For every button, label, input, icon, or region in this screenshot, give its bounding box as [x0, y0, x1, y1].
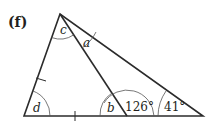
angle-label-d: d — [33, 101, 41, 115]
interior-segment — [60, 14, 127, 116]
angle-label-126: 126° — [125, 100, 154, 114]
angle-label-c: c — [60, 23, 67, 37]
angle-label-b: b — [107, 101, 115, 115]
figure-label: (f) — [8, 14, 27, 30]
geometry-figure: (f) c a d b 126° 41° — [0, 0, 208, 131]
triangle-diagram: (f) c a d b 126° 41° — [0, 0, 208, 131]
angle-label-a: a — [83, 36, 90, 50]
angle-label-41: 41° — [164, 100, 185, 114]
